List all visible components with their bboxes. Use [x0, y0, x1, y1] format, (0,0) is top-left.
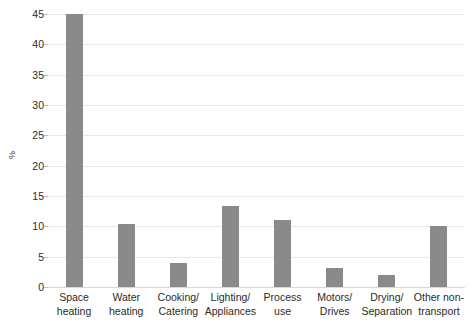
gridline-0	[48, 287, 465, 288]
y-tick-label: 20	[16, 160, 44, 171]
x-axis-label-line: Drying/	[361, 291, 413, 305]
plot-area	[48, 14, 465, 287]
x-axis-label-line: Space	[48, 291, 100, 305]
bar[interactable]	[378, 275, 395, 287]
y-tick-label: 40	[16, 39, 44, 50]
y-tick-label: 45	[16, 9, 44, 20]
bar[interactable]	[274, 220, 291, 287]
bar[interactable]	[170, 263, 187, 287]
bar[interactable]	[326, 268, 343, 287]
x-axis-label-line: Lighting/	[204, 291, 256, 305]
x-axis-label-line: Other non-	[413, 291, 465, 305]
x-axis-label: Motors/Drives	[309, 291, 361, 318]
x-axis-label-line: Motors/	[309, 291, 361, 305]
bar[interactable]	[118, 224, 135, 287]
y-axis-tick-labels: 051015202530354045	[16, 0, 44, 335]
x-axis-label: Cooking/Catering	[152, 291, 204, 318]
y-tick-label: 15	[16, 191, 44, 202]
x-axis-label-line: heating	[48, 305, 100, 319]
y-tick-label: 0	[16, 282, 44, 293]
x-axis-label-line: Water	[100, 291, 152, 305]
bar[interactable]	[430, 226, 447, 287]
y-tick-label: 25	[16, 130, 44, 141]
x-axis-label: Waterheating	[100, 291, 152, 318]
y-tick-label: 10	[16, 221, 44, 232]
x-axis-label-line: use	[257, 305, 309, 319]
x-axis-label-line: Catering	[152, 305, 204, 319]
x-axis-label: Drying/Separation	[361, 291, 413, 318]
x-axis-label-line: Appliances	[204, 305, 256, 319]
y-tick-label: 30	[16, 100, 44, 111]
y-tick-label: 5	[16, 251, 44, 262]
x-axis-label: Other non-transport	[413, 291, 465, 318]
y-tick-label: 35	[16, 69, 44, 80]
bar-chart: % 051015202530354045 SpaceheatingWaterhe…	[0, 0, 476, 335]
x-axis-label: Spaceheating	[48, 291, 100, 318]
x-axis-category-labels: SpaceheatingWaterheatingCooking/Catering…	[48, 291, 465, 331]
x-axis-label-line: heating	[100, 305, 152, 319]
x-axis-label-line: Separation	[361, 305, 413, 319]
bars-group	[48, 14, 465, 287]
bar[interactable]	[66, 14, 83, 287]
y-tick-mark-0	[44, 287, 48, 288]
x-axis-label-line: Drives	[309, 305, 361, 319]
x-axis-label-line: Process	[257, 291, 309, 305]
x-axis-label: Processuse	[257, 291, 309, 318]
x-axis-label-line: Cooking/	[152, 291, 204, 305]
x-axis-label-line: transport	[413, 305, 465, 319]
bar[interactable]	[222, 206, 239, 287]
x-axis-label: Lighting/Appliances	[204, 291, 256, 318]
